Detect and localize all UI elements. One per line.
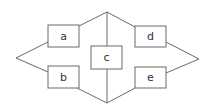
edge-right-apex bbox=[166, 42, 199, 73]
node-d: d bbox=[135, 26, 166, 47]
edge-bottom-apex bbox=[77, 88, 135, 103]
node-c-label: c bbox=[103, 51, 109, 64]
node-e: e bbox=[135, 67, 166, 88]
edge-left-apex bbox=[16, 42, 48, 72]
node-c: c bbox=[91, 46, 122, 69]
node-d-label: d bbox=[147, 30, 154, 43]
node-e-label: e bbox=[147, 71, 154, 84]
diagram-canvas: a b c d e bbox=[0, 0, 208, 109]
node-b-label: b bbox=[60, 71, 67, 84]
node-a-label: a bbox=[60, 30, 67, 43]
node-a: a bbox=[48, 25, 79, 47]
node-b: b bbox=[48, 66, 79, 88]
